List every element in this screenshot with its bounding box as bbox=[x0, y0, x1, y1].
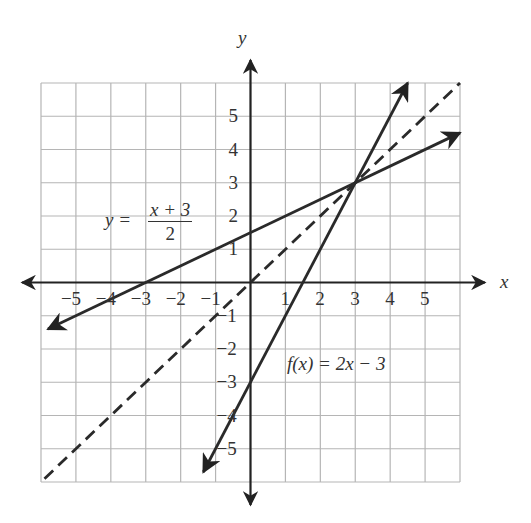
x-axis-label: x bbox=[500, 272, 508, 291]
y-tick-label: 5 bbox=[229, 106, 239, 125]
y-tick-label: 4 bbox=[229, 140, 239, 159]
y-tick-label: −4 bbox=[217, 406, 237, 425]
x-tick-label: −4 bbox=[96, 289, 116, 308]
x-tick-label: −2 bbox=[166, 289, 186, 308]
y-tick-label: 2 bbox=[229, 206, 239, 225]
y-tick-label: 3 bbox=[229, 173, 239, 192]
x-tick-label: 4 bbox=[385, 289, 395, 308]
y-tick-label: 1 bbox=[229, 239, 239, 258]
x-tick-label: 3 bbox=[350, 289, 360, 308]
equation-1-numerator: x + 3 bbox=[148, 200, 192, 222]
x-tick-label: −3 bbox=[131, 289, 151, 308]
y-tick-label: −3 bbox=[217, 372, 237, 391]
y-tick-label: −2 bbox=[217, 339, 237, 358]
plot-lines bbox=[44, 83, 460, 479]
y-axis-label: y bbox=[238, 28, 246, 47]
x-tick-label: 5 bbox=[420, 289, 430, 308]
axes bbox=[22, 60, 485, 505]
y-tick-label: −5 bbox=[217, 439, 237, 458]
x-tick-label: 2 bbox=[315, 289, 325, 308]
coordinate-plane bbox=[0, 0, 531, 523]
equation-1-denominator: 2 bbox=[148, 222, 192, 243]
equation-1-fraction: x + 3 2 bbox=[148, 200, 192, 243]
x-tick-label: 1 bbox=[280, 289, 290, 308]
equation-2-label: f(x) = 2x − 3 bbox=[287, 354, 385, 373]
x-tick-label: −5 bbox=[61, 289, 81, 308]
y-tick-label: −1 bbox=[217, 306, 237, 325]
series-line-2 bbox=[44, 83, 460, 479]
equation-1-lhs: y = bbox=[105, 210, 131, 229]
